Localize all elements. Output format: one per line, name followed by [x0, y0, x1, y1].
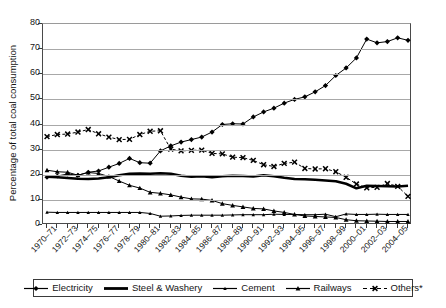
gridline-20 [43, 175, 410, 176]
data-point [405, 38, 410, 43]
data-point [292, 160, 297, 165]
y-tick-mark-40 [38, 124, 42, 125]
x-axis-tick-labels: 1970–711972–731974–751976–771978–791980–… [0, 224, 446, 272]
y-tick-label-70: 70 [18, 43, 40, 52]
legend-item-others[interactable]: Others* [362, 283, 423, 294]
data-point [127, 137, 132, 142]
y-tick-label-50: 50 [18, 93, 40, 102]
gridline-60 [43, 74, 410, 75]
legend-label: Others* [391, 283, 423, 293]
legend-item-railways[interactable]: Railways [285, 283, 352, 294]
y-tick-label-40: 40 [18, 119, 40, 128]
plot-area [42, 23, 411, 224]
legend-marker-triangle-icon [285, 283, 311, 294]
data-point [261, 109, 266, 114]
legend-label: Steel & Washery [132, 283, 202, 293]
data-point [313, 89, 318, 94]
data-point [86, 127, 91, 132]
chart-container: Percentage of total coal consumption 010… [0, 0, 446, 308]
data-point [282, 101, 287, 106]
y-tick-label-80: 80 [18, 18, 40, 27]
data-point [406, 194, 411, 199]
data-point [313, 167, 318, 172]
series-line [47, 212, 408, 217]
gridline-30 [43, 150, 410, 151]
data-point [354, 182, 359, 187]
y-tick-label-20: 20 [18, 169, 40, 178]
data-point [395, 35, 400, 40]
data-point [178, 139, 183, 144]
y-tick-mark-70 [38, 48, 42, 49]
data-point [302, 166, 307, 171]
legend-label: Electricity [52, 283, 93, 293]
legend-item-cement[interactable]: Cement [212, 283, 274, 294]
y-tick-label-10: 10 [18, 194, 40, 203]
data-point [106, 135, 111, 140]
y-tick-mark-10 [38, 199, 42, 200]
gridline-70 [43, 49, 410, 50]
data-point [137, 160, 142, 165]
legend-marker-small-tri-icon [212, 283, 238, 294]
gridline-10 [43, 200, 410, 201]
data-point [323, 166, 328, 171]
legend-marker-none-icon [103, 283, 129, 294]
data-point [189, 137, 194, 142]
legend-marker-x-icon [362, 283, 388, 294]
series-electricity [44, 35, 410, 180]
data-point [106, 165, 111, 170]
chart-legend: ElectricitySteel & WasheryCementRailways… [33, 279, 413, 297]
y-tick-label-30: 30 [18, 144, 40, 153]
y-tick-mark-30 [38, 149, 42, 150]
data-point [96, 131, 101, 136]
legend-item-electricity[interactable]: Electricity [23, 283, 93, 294]
gridline-40 [43, 125, 410, 126]
y-tick-mark-80 [38, 23, 42, 24]
data-point [271, 106, 276, 111]
data-point [127, 156, 132, 161]
data-point [374, 40, 379, 45]
data-point [199, 134, 204, 139]
gridline-50 [43, 99, 410, 100]
legend-label: Cement [241, 283, 274, 293]
data-point [385, 39, 390, 44]
y-tick-mark-60 [38, 73, 42, 74]
series-cement [45, 210, 409, 218]
data-point [148, 129, 153, 134]
y-tick-mark-50 [38, 98, 42, 99]
legend-item-steel-washery[interactable]: Steel & Washery [103, 283, 202, 294]
y-tick-mark-20 [38, 174, 42, 175]
data-point [117, 179, 122, 183]
data-point [137, 132, 142, 137]
series-line [47, 38, 408, 177]
y-tick-label-60: 60 [18, 68, 40, 77]
legend-marker-diamond-icon [23, 283, 49, 294]
data-point [117, 161, 122, 166]
legend-label: Railways [314, 283, 352, 293]
data-point [364, 36, 369, 41]
y-tick-mark-0 [38, 224, 42, 225]
